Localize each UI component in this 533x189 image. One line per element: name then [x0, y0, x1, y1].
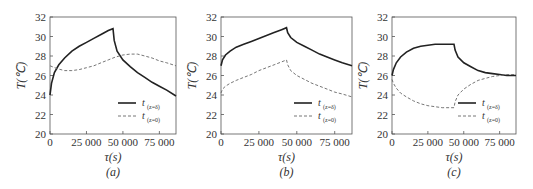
panel-label: (b)	[280, 165, 294, 179]
panel-label: (c)	[447, 165, 460, 179]
x-axis-label: τ(s)	[446, 150, 463, 164]
series-line-zdelta	[50, 29, 176, 96]
y-tick-label: 20	[35, 128, 47, 140]
y-tick-label: 22	[35, 109, 46, 121]
panel-label: (a)	[106, 165, 120, 179]
chart-panel-c: 20222426283032025 00050 00075 000τ(s)T(℃…	[356, 11, 516, 179]
chart-panel-a: 20222426283032025 00050 00075 000τ(s)T(℃…	[14, 11, 176, 179]
y-tick-label: 28	[206, 50, 218, 62]
series-line-z0	[392, 75, 516, 108]
x-axis-label: τ(s)	[105, 150, 122, 164]
x-tick-label: 25 000	[71, 136, 102, 148]
x-tick-label: 25 000	[244, 136, 275, 148]
legend-label: t	[318, 97, 321, 108]
x-tick-label: 50 000	[282, 136, 313, 148]
x-tick-label: 0	[47, 136, 53, 148]
y-tick-label: 20	[206, 128, 218, 140]
x-tick-label: 25 000	[413, 136, 444, 148]
legend-label: t	[482, 110, 485, 121]
x-tick-label: 50 000	[108, 136, 139, 148]
y-tick-label: 20	[377, 128, 389, 140]
legend-subscript: (z=δ)	[487, 104, 500, 111]
y-axis-label: T(℃)	[185, 62, 199, 90]
y-tick-label: 24	[377, 89, 389, 101]
x-axis-label: τ(s)	[278, 150, 295, 164]
legend-subscript: (z=0)	[147, 117, 160, 124]
y-tick-label: 24	[35, 89, 47, 101]
y-tick-label: 26	[377, 70, 389, 82]
y-tick-label: 28	[35, 50, 47, 62]
legend-label: t	[142, 110, 145, 121]
legend-label: t	[482, 97, 485, 108]
y-tick-label: 30	[206, 31, 218, 43]
legend-subscript: (z=δ)	[323, 104, 336, 111]
chart-panel-b: 20222426283032025 00050 00075 000τ(s)T(℃…	[185, 11, 352, 179]
y-tick-label: 30	[377, 31, 389, 43]
legend-subscript: (z=0)	[323, 117, 336, 124]
y-tick-label: 24	[206, 89, 218, 101]
y-tick-label: 32	[377, 11, 388, 23]
legend-label: t	[318, 110, 321, 121]
legend-label: t	[142, 97, 145, 108]
y-axis-label: T(℃)	[14, 62, 28, 90]
y-axis-label: T(℃)	[356, 62, 370, 90]
x-tick-label: 75 000	[485, 136, 516, 148]
legend-subscript: (z=δ)	[147, 104, 160, 111]
y-tick-label: 28	[377, 50, 389, 62]
y-tick-label: 26	[206, 70, 218, 82]
x-tick-label: 50 000	[449, 136, 480, 148]
x-tick-label: 0	[389, 136, 395, 148]
series-line-z0	[50, 54, 176, 71]
y-tick-label: 30	[35, 31, 47, 43]
figure: 20222426283032025 00050 00075 000τ(s)T(℃…	[0, 0, 533, 189]
y-tick-label: 32	[35, 11, 46, 23]
legend-subscript: (z=0)	[487, 117, 500, 124]
y-tick-label: 26	[35, 70, 47, 82]
y-tick-label: 22	[377, 109, 388, 121]
y-tick-label: 32	[206, 11, 217, 23]
y-tick-label: 22	[206, 109, 217, 121]
series-line-zdelta	[392, 44, 516, 75]
series-line-z0	[221, 60, 352, 97]
x-tick-label: 75 000	[144, 136, 175, 148]
x-tick-label: 0	[218, 136, 224, 148]
x-tick-label: 75 000	[320, 136, 351, 148]
